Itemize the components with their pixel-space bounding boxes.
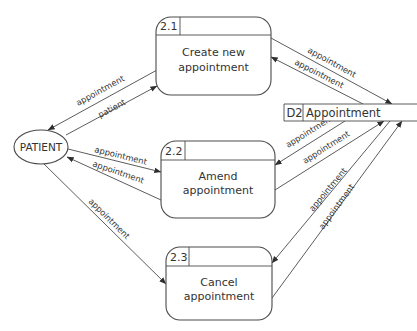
flow-patient-to-2-1[interactable]: patient: [66, 86, 157, 135]
flow-label: appointment: [87, 196, 133, 241]
flow-label: patient: [96, 96, 128, 119]
data-store-id: D2: [287, 106, 303, 120]
process-2-2[interactable]: 2.2 Amend appointment: [161, 141, 275, 218]
data-store-d2[interactable]: D2 Appointment: [284, 104, 417, 121]
process-name-line1: Cancel: [200, 276, 237, 289]
process-name-line2: appointment: [184, 290, 255, 303]
entity-label: PATIENT: [20, 141, 63, 153]
flow-2-1-to-patient[interactable]: appointment: [48, 70, 157, 130]
process-id: 2.1: [160, 20, 178, 33]
process-id: 2.3: [170, 251, 188, 264]
process-2-3[interactable]: 2.3 Cancel appointment: [166, 247, 272, 320]
process-name-line2: appointment: [183, 184, 254, 197]
flow-2-1-to-d2[interactable]: appointment: [271, 38, 392, 104]
process-name-line1: Create new: [182, 46, 245, 59]
flow-2-2-to-patient[interactable]: appointment: [67, 157, 161, 200]
dfd-canvas: appointment patient appointment appointm…: [0, 0, 417, 331]
process-name-line1: Amend: [199, 170, 238, 183]
flow-patient-to-2-3[interactable]: appointment: [44, 164, 166, 284]
process-id: 2.2: [165, 145, 183, 158]
external-entity-patient[interactable]: PATIENT: [14, 130, 68, 164]
process-name-line2: appointment: [178, 61, 249, 74]
data-store-label: Appointment: [306, 106, 381, 120]
process-2-1[interactable]: 2.1 Create new appointment: [156, 17, 271, 95]
